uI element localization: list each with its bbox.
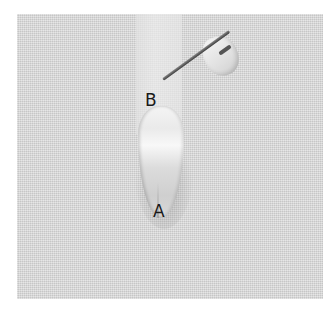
label-point-a: A — [153, 203, 165, 220]
embroidery-photo: B A — [17, 14, 323, 299]
label-point-b: B — [145, 92, 157, 109]
